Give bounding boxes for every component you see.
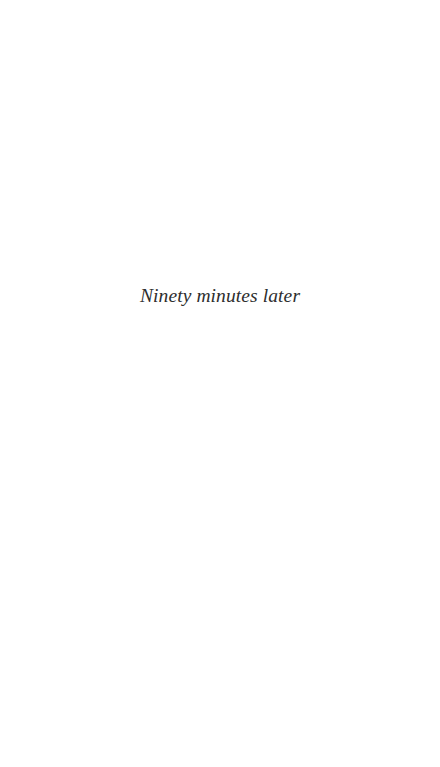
book-page[interactable]: Ninety minutes later	[0, 0, 440, 767]
scene-heading: Ninety minutes later	[0, 283, 440, 309]
